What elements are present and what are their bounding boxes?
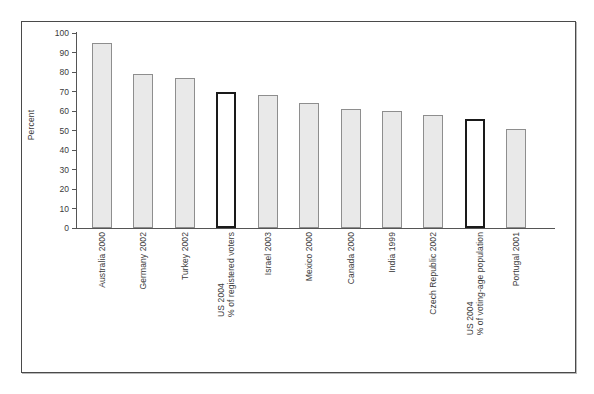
bar-slot — [382, 33, 402, 228]
y-tick-20: 20 — [40, 183, 76, 195]
x-tick-label: Canada 2000 — [346, 232, 356, 284]
y-axis-tick-labels: 1009080706050403020100 — [40, 26, 76, 236]
x-label-slot: Israel 2003 — [258, 232, 278, 372]
bar-turkey-2002[interactable] — [175, 78, 195, 228]
x-tick-label-line1: US 2004 — [465, 301, 475, 335]
x-tick-label: Germany 2002 — [138, 232, 148, 289]
bar-slot — [465, 33, 485, 228]
y-tick-80: 80 — [40, 66, 76, 78]
x-tick-label-line2: % of voting-age population — [475, 232, 485, 335]
x-label-slot: Portugal 2001 — [506, 232, 526, 372]
bar-germany-2002[interactable] — [133, 74, 153, 228]
bar-slot — [92, 33, 112, 228]
y-tick-0: 0 — [40, 222, 76, 234]
x-tick-label-line1: Portugal 2001 — [511, 232, 521, 286]
bar-slot — [423, 33, 443, 228]
bars-group — [76, 33, 555, 228]
x-tick-label-line1: Canada 2000 — [346, 232, 356, 284]
x-label-slot: Germany 2002 — [133, 232, 153, 372]
x-tick-label: US 2004% of voting-age population — [465, 232, 485, 335]
x-tick-label-line2: % of registered voters — [226, 232, 236, 317]
x-axis-tick-labels: Australia 2000Germany 2002Turkey 2002US … — [76, 232, 555, 372]
y-tick-70: 70 — [40, 86, 76, 98]
bar-slot — [175, 33, 195, 228]
x-label-slot: Turkey 2002 — [175, 232, 195, 372]
bar-us-2004[interactable] — [465, 119, 485, 228]
x-tick-label: Turkey 2002 — [180, 232, 190, 280]
bar-slot — [216, 33, 236, 228]
bar-portugal-2001[interactable] — [506, 129, 526, 228]
x-tick-label-line1: Germany 2002 — [138, 232, 148, 289]
y-tick-10: 10 — [40, 203, 76, 215]
x-tick-label: US 2004% of registered voters — [216, 232, 236, 317]
bar-australia-2000[interactable] — [92, 43, 112, 228]
bar-slot — [258, 33, 278, 228]
x-axis-line — [76, 228, 555, 229]
bar-czech-republic-2002[interactable] — [423, 115, 443, 228]
x-tick-label: India 1999 — [387, 232, 397, 273]
y-tick-50: 50 — [40, 125, 76, 137]
bar-israel-2003[interactable] — [258, 95, 278, 228]
bar-slot — [341, 33, 361, 228]
x-label-slot: Mexico 2000 — [299, 232, 319, 372]
bar-mexico-2000[interactable] — [299, 103, 319, 228]
x-tick-label: Israel 2003 — [263, 232, 273, 275]
bar-us-2004[interactable] — [216, 92, 236, 229]
x-label-slot: India 1999 — [382, 232, 402, 372]
x-label-slot: Canada 2000 — [341, 232, 361, 372]
x-tick-label-line1: Israel 2003 — [263, 232, 273, 275]
bar-india-1999[interactable] — [382, 111, 402, 228]
x-tick-label-line1: Mexico 2000 — [304, 232, 314, 281]
x-label-slot: Australia 2000 — [92, 232, 112, 372]
x-tick-label-line1: Turkey 2002 — [180, 232, 190, 280]
x-tick-label: Czech Republic 2002 — [428, 232, 438, 315]
y-tick-40: 40 — [40, 144, 76, 156]
x-tick-label-line1: Australia 2000 — [97, 232, 107, 288]
bar-slot — [133, 33, 153, 228]
y-tick-90: 90 — [40, 47, 76, 59]
bar-canada-2000[interactable] — [341, 109, 361, 228]
y-tick-100: 100 — [40, 27, 76, 39]
x-label-slot: Czech Republic 2002 — [423, 232, 443, 372]
y-tick-60: 60 — [40, 105, 76, 117]
y-tick-30: 30 — [40, 164, 76, 176]
x-tick-label: Australia 2000 — [97, 232, 107, 288]
bar-slot — [506, 33, 526, 228]
bar-chart: Percent 1009080706050403020100 Australia… — [0, 0, 594, 394]
x-tick-label: Portugal 2001 — [511, 232, 521, 286]
chart-page: Percent 1009080706050403020100 Australia… — [0, 0, 594, 394]
x-tick-label-line1: India 1999 — [387, 232, 397, 273]
x-tick-label-line1: Czech Republic 2002 — [428, 232, 438, 315]
x-tick-label-line1: US 2004 — [216, 283, 226, 317]
y-axis-title: Percent — [26, 90, 36, 160]
bar-slot — [299, 33, 319, 228]
x-label-slot: US 2004% of voting-age population — [465, 232, 485, 372]
x-tick-label: Mexico 2000 — [304, 232, 314, 281]
x-label-slot: US 2004% of registered voters — [216, 232, 236, 372]
